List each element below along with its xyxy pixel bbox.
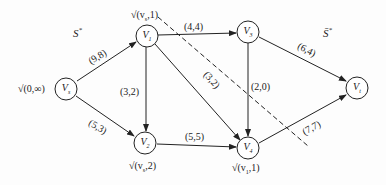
- edge-v1-v3: [158, 33, 236, 35]
- node-v2: V2: [134, 137, 156, 149]
- node-v1: V1: [136, 30, 158, 42]
- edge-label-v1-v3: (4,4): [184, 22, 203, 32]
- set-s-star-label: S*: [73, 27, 82, 39]
- edge-label-v3-v4: (2,0): [251, 82, 270, 92]
- mark-v4: √(v1,1): [232, 163, 260, 175]
- edge-label-v1-v2: (3,2): [120, 87, 139, 97]
- mark-v1: √(vs,1): [131, 10, 158, 22]
- node-vs: Vs: [55, 83, 77, 95]
- mark-v2: √(vs,2): [129, 161, 156, 173]
- node-vt: Vt: [346, 82, 368, 94]
- cut-dashed-line: [158, 17, 308, 146]
- edge-label-v2-v4: (5,5): [185, 132, 204, 142]
- set-s-bar-star-label: S̄*: [323, 27, 332, 39]
- edge-vs-v1: [77, 42, 136, 81]
- edge-v1-v4: [155, 44, 240, 140]
- node-v3: V3: [237, 26, 259, 38]
- edge-v4-vt: [259, 95, 346, 143]
- flow-network-diagram: Vs V1 V2 V3 V4 Vt S* S̄* √(0,∞) √(vs,1) …: [0, 0, 386, 185]
- edge-v2-v4: [157, 144, 236, 147]
- node-v4: V4: [237, 142, 259, 154]
- mark-vs: √(0,∞): [18, 84, 45, 94]
